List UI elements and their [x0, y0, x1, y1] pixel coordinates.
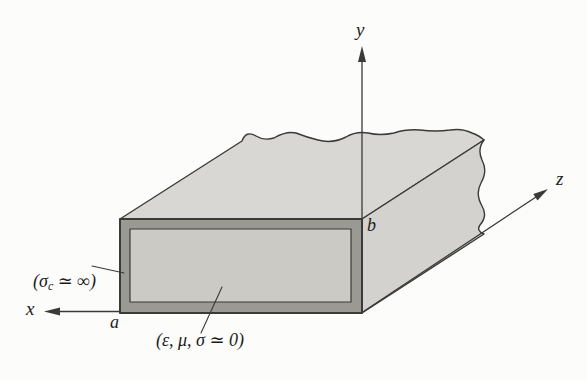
z-axis-label: z	[556, 169, 563, 188]
conductor-annotation-suffix: ≃ ∞)	[53, 271, 96, 291]
conductor-annotation: (σc ≃ ∞)	[15, 254, 96, 310]
waveguide-drawing	[0, 0, 587, 380]
y-axis-arrowhead	[358, 46, 366, 62]
width-label-a: a	[110, 313, 119, 331]
diagram-strokes	[44, 46, 548, 333]
height-label-b: b	[367, 216, 376, 234]
waveguide-figure: y z x a b (σc ≃ ∞) (ε, μ, σ ≃ 0)	[0, 0, 587, 380]
dielectric-annotation: (ε, μ, σ ≃ 0)	[156, 331, 244, 349]
y-axis-label: y	[356, 20, 364, 39]
conductor-annotation-prefix: (σ	[33, 271, 48, 291]
waveguide-dielectric-core	[130, 229, 351, 302]
z-axis-arrowhead	[533, 189, 548, 200]
